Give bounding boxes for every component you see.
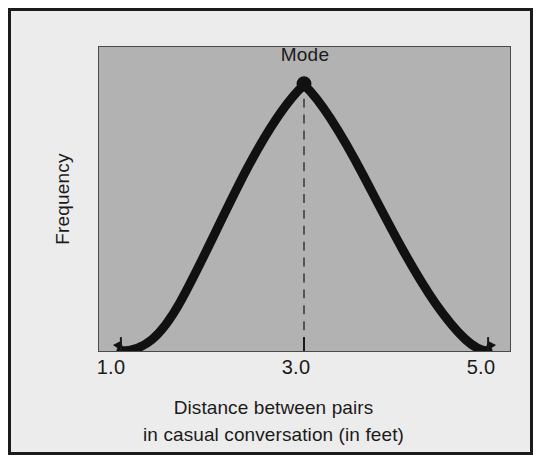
figure-container: Frequency Mode 1.0 3.0 xyxy=(0,0,550,468)
x-tick-label-3: 3.0 xyxy=(266,356,326,379)
x-axis-caption-line-1: Distance between pairs xyxy=(51,394,496,421)
x-axis-caption: Distance between pairs in casual convers… xyxy=(51,394,496,448)
x-axis-caption-line-2: in casual conversation (in feet) xyxy=(51,421,496,448)
figure-panel: Frequency Mode 1.0 3.0 xyxy=(8,8,533,455)
distribution-curve-svg xyxy=(99,47,510,351)
x-tick-label-5: 5.0 xyxy=(451,356,511,379)
x-tick-label-1: 1.0 xyxy=(81,356,141,379)
mode-point-marker xyxy=(297,76,312,91)
plot-area xyxy=(98,46,511,352)
y-axis-label: Frequency xyxy=(52,119,78,279)
mode-annotation-label: Mode xyxy=(265,44,345,66)
